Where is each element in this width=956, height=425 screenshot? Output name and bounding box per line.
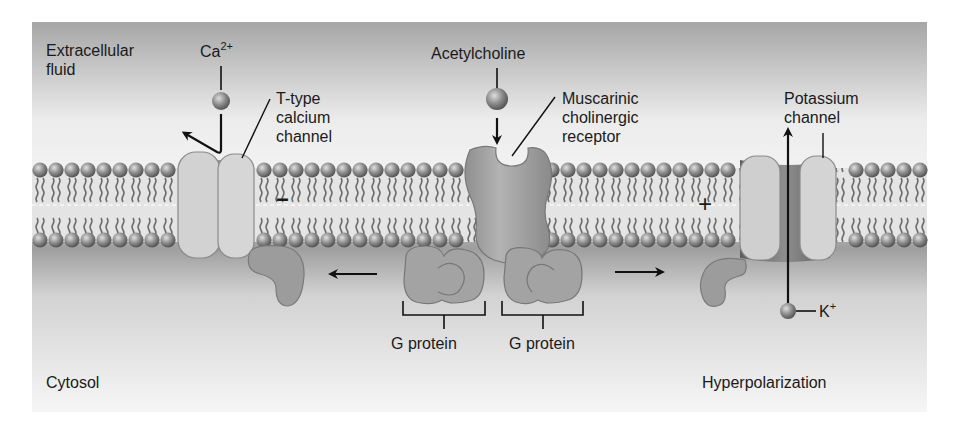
membrane-diagram <box>0 0 956 425</box>
potassium-base: K <box>819 303 830 320</box>
calcium-ion-icon <box>212 92 230 110</box>
label-potassium-channel: Potassium channel <box>784 89 859 127</box>
label-muscarinic-receptor: Muscarinic cholinergic receptor <box>562 89 638 146</box>
potassium-charge: + <box>830 300 836 312</box>
label-g-protein-left: G protein <box>391 334 457 353</box>
label-extracellular-fluid: Extracellular fluid <box>46 41 134 79</box>
label-cytosol: Cytosol <box>46 373 99 392</box>
label-t-type-calcium-channel: T-type calcium channel <box>276 89 332 146</box>
label-g-protein-right: G protein <box>509 334 575 353</box>
label-potassium-ion: K+ <box>819 302 836 321</box>
label-acetylcholine: Acetylcholine <box>431 44 525 63</box>
calcium-charge: 2+ <box>220 40 233 52</box>
membrane-charge-positive: + <box>698 194 712 213</box>
membrane-charge-negative: − <box>276 190 289 209</box>
calcium-base: Ca <box>200 43 220 60</box>
g-protein-right-shape <box>504 248 582 304</box>
t-type-calcium-channel <box>178 152 254 258</box>
g-protein-left-shape <box>404 246 484 304</box>
label-calcium-ion: Ca2+ <box>200 42 233 61</box>
potassium-ion-icon <box>780 303 796 319</box>
label-hyperpolarization: Hyperpolarization <box>702 373 827 392</box>
acetylcholine-molecule-icon <box>486 88 508 110</box>
